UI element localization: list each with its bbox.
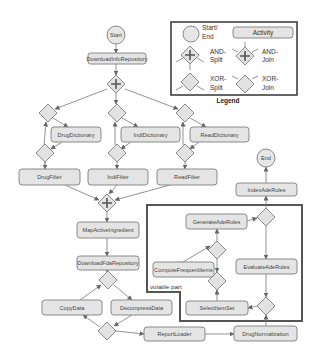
activity-decompress-data: DecompressData xyxy=(111,300,172,315)
activity-drug-dictionary: DrugDictionary xyxy=(51,127,101,142)
svg-text:ReportLoader: ReportLoader xyxy=(157,331,191,337)
legend-and-split-label-2: Split xyxy=(210,56,223,64)
xor-join-drug xyxy=(36,144,54,162)
legend-xor-join-label: XOR- xyxy=(262,75,278,82)
activity-read-filter: ReadFilter xyxy=(157,169,217,185)
legend-start-end-icon xyxy=(183,26,199,42)
svg-text:DrugDictionary: DrugDictionary xyxy=(58,132,95,138)
start-event: Start xyxy=(107,26,125,44)
and-split-gateway xyxy=(107,75,125,93)
svg-text:ReadDictionary: ReadDictionary xyxy=(200,132,238,138)
xor-gateway-frequent xyxy=(208,241,226,259)
svg-text:ComputeFrequentItems: ComputeFrequentItems xyxy=(154,267,213,273)
activity-drug-filter: DrugFilter xyxy=(19,169,80,185)
legend-and-join-label-2: Join xyxy=(262,56,274,63)
xor-split-drug xyxy=(39,104,57,122)
svg-text:CopyData: CopyData xyxy=(60,305,86,311)
xor-gateway-normalization xyxy=(257,297,275,315)
end-event: End xyxy=(257,149,275,167)
legend-activity-label: Activity xyxy=(253,29,274,37)
svg-text:DownloadInfoRepository: DownloadInfoRepository xyxy=(87,56,148,62)
svg-text:SelectItemSet: SelectItemSet xyxy=(200,305,235,311)
activity-compute-frequent-items: ComputeFrequentItems xyxy=(153,262,214,277)
legend-and-split-label: AND- xyxy=(210,48,226,55)
svg-text:DownloadFdaRepository: DownloadFdaRepository xyxy=(77,260,138,266)
legend-xor-join-label-2: Join xyxy=(262,84,274,91)
activity-copy-data: CopyData xyxy=(42,300,102,315)
xor-split-data xyxy=(99,271,117,289)
xor-join-indi xyxy=(108,144,126,162)
legend-start-end-label-2: End xyxy=(202,33,214,40)
svg-text:GenerateAdeRules: GenerateAdeRules xyxy=(193,219,241,225)
activity-index-ade-rules: IndexAdeRules xyxy=(236,183,297,196)
start-label: Start xyxy=(110,32,122,38)
svg-text:DecompressData: DecompressData xyxy=(120,305,164,311)
activity-report-loader: ReportLoader xyxy=(144,327,205,341)
svg-text:DrugFilter: DrugFilter xyxy=(37,174,62,180)
xor-join-data xyxy=(98,322,116,340)
svg-text:MapActiveIngredient: MapActiveIngredient xyxy=(83,227,134,233)
activity-indi-dictionary: IndiDictionary xyxy=(121,127,180,142)
workflow-diagram: Start/ End Activity AND- Split AND- Join… xyxy=(0,0,319,356)
and-join-gateway xyxy=(98,194,116,212)
svg-text:ReadFilter: ReadFilter xyxy=(174,174,200,180)
xor-gateway-generate xyxy=(257,208,275,226)
svg-text:DrugNormalization: DrugNormalization xyxy=(242,331,288,337)
xor-join-read xyxy=(176,144,194,162)
end-label: End xyxy=(261,155,271,161)
legend-start-end-label: Start/ xyxy=(202,24,218,31)
svg-text:EvaluateAdeRules: EvaluateAdeRules xyxy=(243,264,289,270)
activity-map-active-ingredient: MapActiveIngredient xyxy=(77,222,139,238)
svg-text:IndexAdeRules: IndexAdeRules xyxy=(248,187,286,193)
legend-xor-split-label: XOR- xyxy=(210,75,226,82)
legend-and-join-label: AND- xyxy=(262,48,278,55)
svg-text:IndiDictionary: IndiDictionary xyxy=(134,132,168,138)
activity-evaluate-ade-rules: EvaluateAdeRules xyxy=(236,259,297,274)
activity-download-info: DownloadInfoRepository xyxy=(87,53,148,64)
activity-download-fda: DownloadFdaRepository xyxy=(77,256,139,270)
activity-indi-filter: IndiFilter xyxy=(88,169,148,185)
volatile-region-label: volatile part xyxy=(150,283,182,290)
svg-text:IndiFilter: IndiFilter xyxy=(107,174,129,180)
xor-split-indi xyxy=(108,104,126,122)
activity-select-itemset: SelectItemSet xyxy=(186,301,248,315)
activity-read-dictionary: ReadDictionary xyxy=(190,127,249,142)
activity-drug-normalization: DrugNormalization xyxy=(234,326,297,341)
xor-split-read xyxy=(176,104,194,122)
legend-xor-split-label-2: Split xyxy=(210,84,223,92)
legend-title: Legend xyxy=(216,97,239,105)
legend: Start/ End Activity AND- Split AND- Join… xyxy=(171,22,297,105)
activity-generate-ade-rules: GenerateAdeRules xyxy=(186,214,247,229)
